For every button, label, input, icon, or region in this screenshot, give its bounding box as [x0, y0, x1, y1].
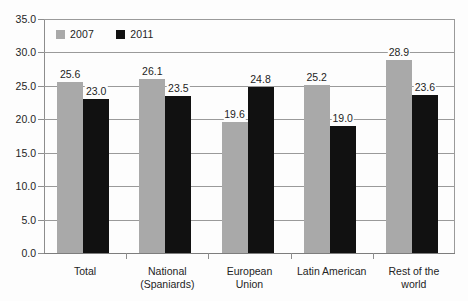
x-axis-tick: [291, 253, 292, 259]
bar-chart: 2007 2011 0.05.010.015.020.025.030.035.0…: [0, 0, 468, 301]
bar-2011-national--spaniards-[interactable]: [165, 96, 191, 253]
y-axis-tick-label: 30.0: [0, 46, 36, 58]
bar-value-label: 23.6: [414, 81, 436, 93]
x-axis-category-label: National (Spaniards): [140, 265, 194, 291]
y-axis-tick-label: 25.0: [0, 80, 36, 92]
bar-2007-rest-of-the-world[interactable]: [386, 60, 412, 253]
y-axis-tick-label: 0.0: [0, 247, 36, 259]
gridline: [44, 19, 455, 20]
bar-value-label: 25.6: [59, 68, 81, 80]
axis-baseline: [44, 253, 455, 254]
bar-value-label: 25.2: [305, 71, 327, 83]
x-axis-category-label: European Union: [227, 265, 273, 291]
x-axis-category-label: Latin American: [297, 265, 366, 278]
bar-value-label: 24.8: [249, 73, 271, 85]
y-axis-tick-label: 35.0: [0, 13, 36, 25]
x-axis-tick: [373, 253, 374, 259]
bar-value-label: 23.5: [167, 82, 189, 94]
x-axis-category-label: Rest of the world: [389, 265, 440, 291]
y-axis-tick-label: 20.0: [0, 113, 36, 125]
bar-value-label: 19.0: [331, 112, 353, 124]
y-axis-tick-label: 10.0: [0, 180, 36, 192]
bar-2007-latin-american[interactable]: [304, 85, 330, 253]
bar-2007-total[interactable]: [57, 82, 83, 253]
plot-area: 25.623.026.123.519.624.825.219.028.923.6: [44, 19, 455, 253]
bar-value-label: 28.9: [388, 46, 410, 58]
bar-2011-european-union[interactable]: [248, 87, 274, 253]
y-axis-tick-label: 5.0: [0, 214, 36, 226]
bar-2011-total[interactable]: [83, 99, 109, 253]
x-axis-category-label: Total: [74, 265, 96, 278]
bar-2011-rest-of-the-world[interactable]: [412, 95, 438, 253]
bar-value-label: 23.0: [85, 85, 107, 97]
y-axis-tick-label: 15.0: [0, 147, 36, 159]
bar-value-label: 26.1: [141, 65, 163, 77]
x-axis-tick: [208, 253, 209, 259]
x-axis-tick: [126, 253, 127, 259]
bar-2007-national--spaniards-[interactable]: [139, 79, 165, 253]
bar-2007-european-union[interactable]: [222, 122, 248, 253]
bar-2011-latin-american[interactable]: [330, 126, 356, 253]
bar-value-label: 19.6: [223, 108, 245, 120]
